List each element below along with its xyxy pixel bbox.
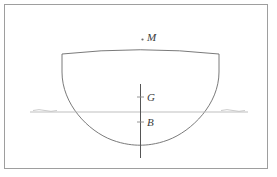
- metacenter-point-marker: [141, 38, 143, 40]
- label-center-of-buoyancy: B: [147, 117, 154, 128]
- stability-diagram: [0, 0, 277, 177]
- water-surface-tilde-left-icon: [33, 110, 57, 112]
- figure-root: M G B: [0, 0, 277, 177]
- label-center-of-gravity: G: [147, 92, 155, 103]
- label-metacenter: M: [147, 32, 156, 43]
- water-surface-tilde-right-icon: [221, 110, 245, 112]
